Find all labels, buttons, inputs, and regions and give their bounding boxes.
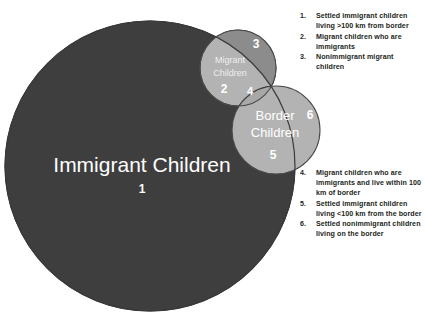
legend-item-text: Settled nonimmigrant children living on … <box>316 219 423 239</box>
legend-item-text: Nonimmigrant migrant children <box>316 52 423 72</box>
label-migrant-children-line2: Children <box>213 68 247 78</box>
region-number-2: 2 <box>221 82 228 96</box>
legend-item: 5. Settled immigrant children living <10… <box>299 199 423 219</box>
legend-item-number: 6. <box>299 219 316 229</box>
legend-item-text: Settled immigrant children living <100 k… <box>316 199 423 219</box>
legend-item-number: 4. <box>299 168 316 178</box>
legend-item: 4. Migrant children who are immigrants a… <box>299 168 423 198</box>
legend-item-number: 2. <box>299 32 316 42</box>
region-number-5: 5 <box>270 148 277 162</box>
region-number-4: 4 <box>247 85 254 97</box>
legend-top: 1. Settled immigrant children living >10… <box>299 11 423 73</box>
region-number-1: 1 <box>139 182 146 196</box>
legend-item-text: Migrant children who are immigrants and … <box>316 168 423 198</box>
euler-diagram: Immigrant Children 1 Migrant Children 2 … <box>0 0 330 328</box>
legend-item-number: 1. <box>299 11 316 21</box>
legend-item: 2. Migrant children who are immigrants <box>299 32 423 52</box>
legend-item-number: 5. <box>299 199 316 209</box>
label-border-children-line1: Border <box>255 108 295 123</box>
legend-item: 6. Settled nonimmigrant children living … <box>299 219 423 239</box>
legend-item-number: 3. <box>299 52 316 62</box>
legend-item-text: Migrant children who are immigrants <box>316 32 423 52</box>
label-migrant-children-line1: Migrant <box>215 55 246 65</box>
region-number-3: 3 <box>253 37 260 51</box>
legend-item: 3. Nonimmigrant migrant children <box>299 52 423 72</box>
legend-item-text: Settled immigrant children living >100 k… <box>316 11 423 31</box>
label-immigrant-children: Immigrant Children <box>53 153 230 176</box>
legend-bottom: 4. Migrant children who are immigrants a… <box>299 168 423 240</box>
label-border-children-line2: Children <box>251 125 299 140</box>
legend-item: 1. Settled immigrant children living >10… <box>299 11 423 31</box>
region-number-6: 6 <box>307 108 314 122</box>
